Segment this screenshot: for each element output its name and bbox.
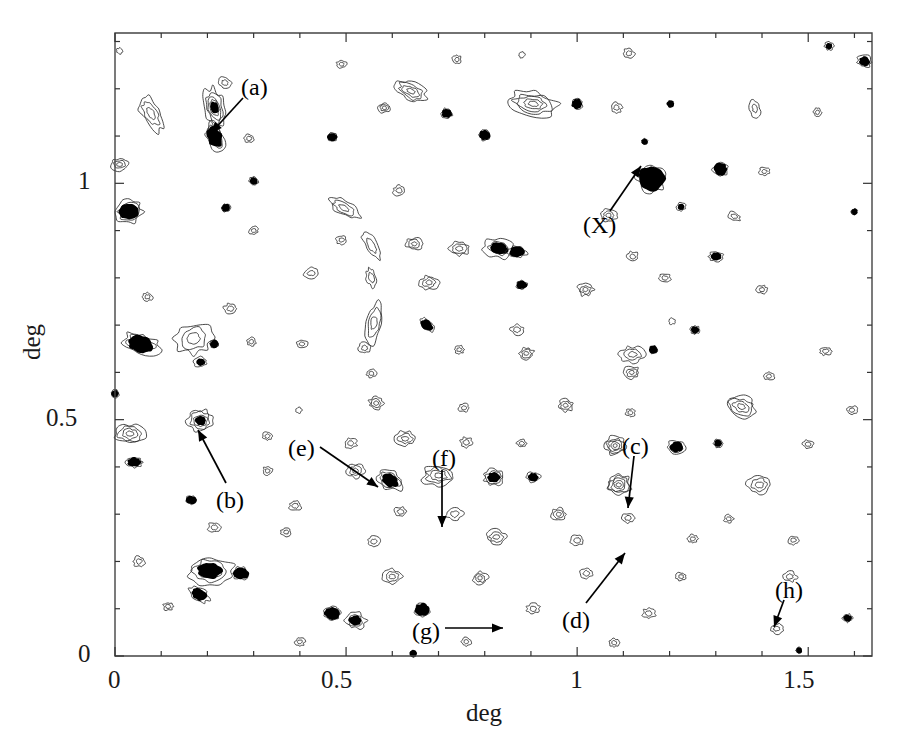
contour-source (609, 638, 620, 647)
contour-source (188, 586, 210, 604)
contour-source (262, 432, 272, 441)
annotation-label-e: (e) (288, 435, 315, 462)
contour-source (857, 55, 872, 68)
annotation-label-f: (f) (432, 445, 456, 472)
contour-source (516, 439, 527, 447)
x-tick-label-0: 0 (108, 666, 121, 694)
contour-plot-svg (0, 0, 917, 755)
contour-source (328, 197, 361, 218)
contour-source (111, 159, 129, 172)
contour-source (708, 252, 724, 262)
contour-source (365, 300, 382, 347)
contour-source (641, 138, 647, 144)
contour-source (207, 523, 221, 532)
x-tick-label-3: 1.5 (783, 666, 814, 694)
contour-source (185, 409, 213, 432)
contour-source (163, 603, 174, 611)
contour-source (687, 534, 699, 543)
contour-source (824, 41, 835, 50)
contour-source (448, 241, 469, 256)
contour-source (296, 340, 308, 347)
contour-source (249, 226, 259, 234)
contour-source (813, 108, 822, 117)
contour-source (483, 468, 502, 486)
contour-source (419, 275, 440, 290)
contour-source (820, 348, 832, 356)
annotation-arrows (198, 98, 784, 633)
contour-source (382, 568, 403, 584)
contour-source (559, 398, 574, 412)
contour-source (577, 283, 595, 296)
contour-source (336, 60, 347, 68)
contour-source (847, 406, 858, 415)
contour-source (294, 638, 305, 646)
contour-source (519, 347, 535, 360)
contour-source (446, 507, 465, 520)
contour-source (186, 496, 197, 505)
contour-layer (111, 41, 872, 657)
contour-source (115, 199, 145, 224)
contour-source (618, 346, 646, 364)
contour-source (394, 81, 428, 102)
contour-source (324, 606, 342, 620)
contour-source (756, 285, 768, 294)
contour-source (508, 90, 561, 118)
contour-source (478, 130, 489, 141)
contour-source (642, 608, 656, 619)
contour-source (248, 176, 258, 185)
contour-source (612, 102, 623, 114)
y-tick-label-1: 0.5 (46, 404, 77, 432)
contour-source (759, 167, 770, 175)
contour-source (303, 267, 318, 279)
contour-source (510, 324, 524, 336)
contour-source (394, 507, 407, 516)
annotation-label-d: (d) (562, 607, 590, 634)
contour-source (209, 339, 218, 348)
contour-source (607, 474, 632, 496)
contour-source (570, 535, 583, 546)
x-tick-label-2: 1 (570, 666, 583, 694)
contour-source (746, 476, 771, 495)
contour-source (728, 211, 741, 221)
contour-source (796, 647, 802, 654)
contour-source (345, 438, 357, 449)
contour-source (516, 280, 528, 289)
x-axis-title: deg (466, 699, 502, 727)
contour-source (366, 369, 377, 378)
contour-source (461, 637, 472, 646)
contour-source (393, 185, 405, 196)
y-tick-label-0: 0 (78, 640, 91, 668)
contour-source (519, 52, 526, 59)
annotation-label-X: (X) (583, 212, 616, 239)
contour-source (749, 99, 761, 118)
figure-page: 0 0.5 1 1.5 0 0.5 1 deg deg (a)(X)(b)(e)… (0, 0, 917, 755)
contour-source (368, 536, 381, 547)
contour-source (551, 507, 567, 520)
contour-source (366, 267, 377, 289)
contour-source (623, 48, 635, 58)
annotation-label-a: (a) (241, 74, 268, 101)
contour-source (133, 556, 146, 567)
y-axis-title: deg (18, 324, 46, 360)
contour-source (458, 403, 469, 412)
contour-source (247, 337, 257, 346)
contour-source (142, 292, 153, 301)
contour-source (472, 571, 489, 585)
contour-source (842, 614, 853, 623)
contour-source (486, 528, 507, 545)
contour-source (713, 439, 723, 448)
contour-source (121, 332, 162, 356)
contour-source (336, 236, 347, 245)
contour-source (723, 514, 734, 523)
contour-source (420, 317, 435, 332)
contour-source (414, 603, 430, 617)
contour-source (625, 409, 635, 417)
contour-source (650, 346, 658, 354)
contour-source (172, 324, 215, 356)
contour-source (526, 472, 541, 483)
contour-source (405, 237, 423, 249)
contour-source (441, 108, 453, 118)
contour-source (361, 232, 380, 261)
contour-source (117, 47, 123, 54)
contour-source (764, 372, 775, 380)
